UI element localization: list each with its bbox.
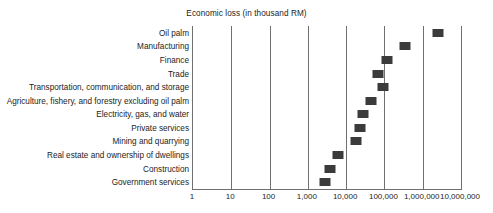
x-tick-label: 10,000,000 [440,192,480,201]
data-point-marker [358,110,369,118]
category-label: Real estate and ownership of dwellings [0,151,189,160]
category-label: Mining and quarrying [0,137,189,146]
x-tick-label: 1,000,000 [404,192,440,201]
x-tick-label: 1 [190,192,194,201]
data-point-marker [377,83,388,91]
category-label: Manufacturing [0,42,189,51]
x-tick-label: 10,000 [333,192,357,201]
gridline-1000000 [423,26,424,189]
x-tick-label: 10 [226,192,235,201]
x-tick-label: 100 [262,192,275,201]
category-label: Finance [0,55,189,64]
chart-title: Economic loss (in thousand RM) [0,9,493,18]
category-label: Transportation, communication, and stora… [0,83,189,92]
gridline-100000 [384,26,385,189]
data-point-marker [366,97,377,105]
data-point-marker [400,42,411,50]
data-point-marker [373,70,384,78]
data-point-marker [325,165,336,173]
data-point-marker [382,56,393,64]
x-axis-tick-labels: 1101001,00010,000100,0001,000,00010,000,… [0,192,493,206]
plot-area [192,26,462,190]
economic-loss-chart: Economic loss (in thousand RM) Oil palmM… [0,0,493,213]
category-axis-labels: Oil palmManufacturingFinanceTradeTranspo… [0,26,189,189]
data-point-marker [319,178,330,186]
x-tick-label: 100,000 [369,192,398,201]
category-label: Government services [0,178,189,187]
data-point-marker [432,29,443,37]
data-point-marker [350,137,361,145]
data-point-marker [332,151,343,159]
category-label: Trade [0,69,189,78]
gridline-1000 [308,26,309,189]
x-tick-label: 1,000 [297,192,317,201]
category-label: Electricity, gas, and water [0,110,189,119]
data-point-marker [354,124,365,132]
gridline-10000 [346,26,347,189]
category-label: Oil palm [0,28,189,37]
gridline-100 [270,26,271,189]
category-label: Agriculture, fishery, and forestry exclu… [0,96,189,105]
gridline-10 [231,26,232,189]
category-label: Construction [0,164,189,173]
category-label: Private services [0,123,189,132]
